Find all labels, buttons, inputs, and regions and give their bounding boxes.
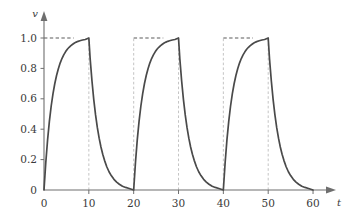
x-tick-label-10: 10 [82,197,95,209]
y-axis-label: v [32,8,38,19]
x-tick-label-50: 50 [262,197,275,209]
x-tick-label-0: 0 [41,197,48,209]
y-axis-arrow [41,11,48,21]
x-tick-label-20: 20 [127,197,140,209]
y-tick-label-0.4: 0.4 [20,123,37,135]
x-tick-label-30: 30 [172,197,185,209]
y-tick-label-0.8: 0.8 [20,62,37,74]
x-tick-label-60: 60 [306,197,319,209]
y-tick-label-1.0: 1.0 [20,32,37,44]
data-series-0 [44,38,313,190]
x-tick-label-40: 40 [217,197,230,209]
x-axis-arrow [326,187,336,194]
y-tick-label-0: 0 [30,184,37,196]
x-axis-label: t [337,197,342,208]
y-tick-label-0.2: 0.2 [20,153,37,165]
chart-figure: 00.20.40.60.81.00102030405060tv [0,0,348,217]
y-tick-label-0.6: 0.6 [20,92,37,104]
chart-svg: 00.20.40.60.81.00102030405060tv [0,0,348,217]
